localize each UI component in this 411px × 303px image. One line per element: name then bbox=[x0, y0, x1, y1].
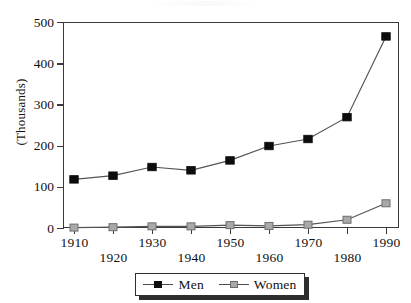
data-point-women-1960 bbox=[265, 222, 273, 229]
data-point-men-1980 bbox=[343, 113, 352, 121]
data-point-men-1920 bbox=[109, 172, 118, 180]
data-point-women-1980 bbox=[343, 216, 351, 223]
data-point-women-1920 bbox=[109, 224, 117, 231]
data-point-women-1950 bbox=[226, 222, 234, 229]
data-layer bbox=[0, 0, 411, 303]
chart-legend: Men Women bbox=[135, 273, 305, 296]
data-point-women-1990 bbox=[382, 200, 390, 207]
series-women bbox=[70, 200, 390, 231]
legend-marker-men-icon bbox=[143, 279, 173, 290]
data-point-men-1930 bbox=[148, 163, 157, 171]
legend-label-women: Women bbox=[254, 278, 297, 292]
data-point-women-1930 bbox=[148, 223, 156, 230]
data-point-women-1970 bbox=[304, 221, 312, 228]
series-men bbox=[70, 33, 391, 183]
data-point-men-1960 bbox=[265, 142, 274, 150]
data-point-men-1950 bbox=[226, 157, 235, 165]
data-point-women-1910 bbox=[70, 224, 78, 231]
data-point-men-1940 bbox=[187, 167, 196, 175]
chart-container: (Thousands) 500 400 300 200 100 0 1910 1… bbox=[0, 0, 411, 303]
data-point-women-1940 bbox=[187, 223, 195, 230]
legend-item-men[interactable]: Men bbox=[143, 278, 203, 292]
legend-marker-women-icon bbox=[219, 279, 249, 290]
data-point-men-1910 bbox=[70, 176, 79, 184]
legend-label-men: Men bbox=[178, 278, 203, 292]
data-point-men-1970 bbox=[304, 135, 313, 143]
legend-item-women[interactable]: Women bbox=[219, 278, 297, 292]
data-point-men-1990 bbox=[382, 33, 391, 41]
